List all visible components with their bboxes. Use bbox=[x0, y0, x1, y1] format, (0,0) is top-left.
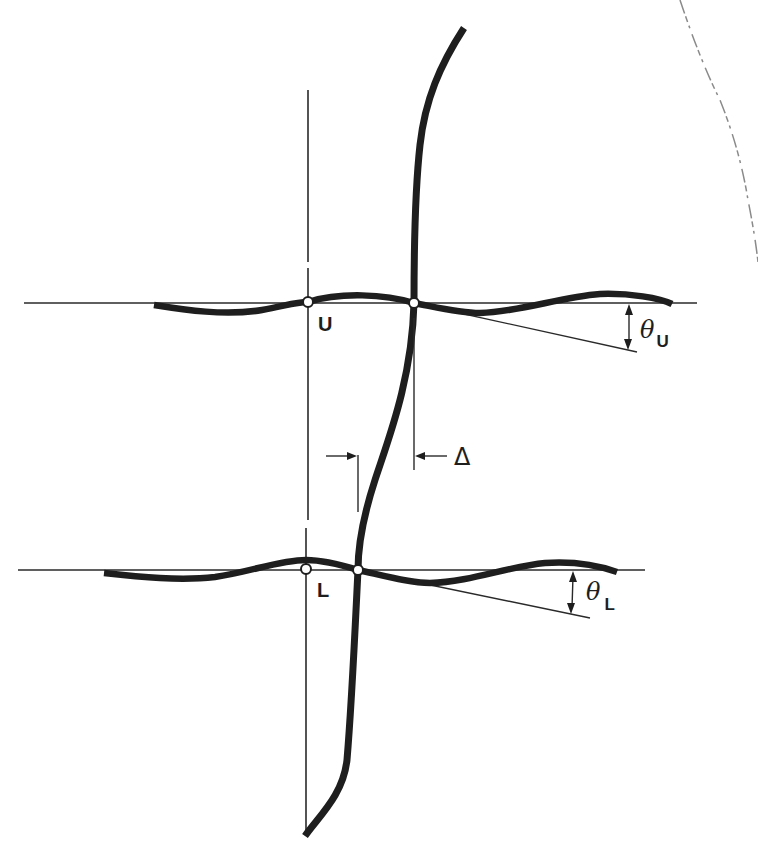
arrow-up-icon bbox=[625, 304, 633, 315]
frame-deflection-diagram: U L Δ θU θL bbox=[0, 0, 758, 861]
arrow-left-icon bbox=[415, 452, 425, 460]
drift-label: Δ bbox=[454, 443, 471, 471]
column-deformed bbox=[305, 28, 464, 836]
arrow-down-icon bbox=[624, 339, 632, 350]
arrow-down-icon bbox=[567, 603, 575, 614]
theta-upper-label: θU bbox=[640, 316, 669, 351]
arrow-up-icon bbox=[569, 571, 577, 582]
lower-left-node bbox=[301, 564, 311, 574]
arrow-right-icon bbox=[347, 452, 357, 460]
scan-artifact bbox=[680, 0, 758, 262]
theta-lower-label: θL bbox=[586, 578, 615, 614]
lower-joint-node bbox=[353, 565, 363, 575]
upper-left-node bbox=[303, 297, 313, 307]
upper-node-label: U bbox=[318, 313, 332, 335]
upper-joint-node bbox=[409, 298, 419, 308]
lower-node-label: L bbox=[317, 579, 329, 601]
